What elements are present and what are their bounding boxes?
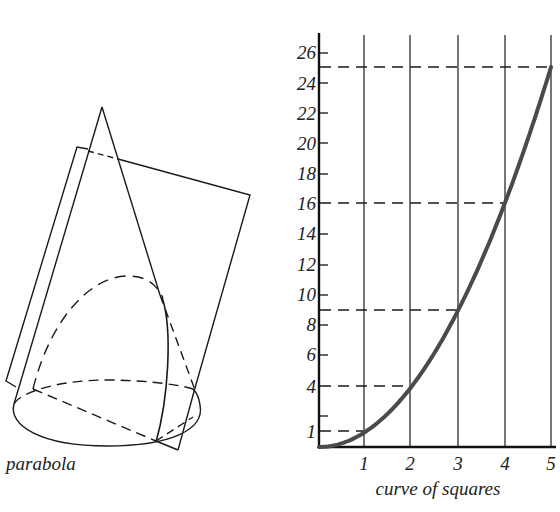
parabola-dashed: [33, 276, 163, 389]
x-label-4: 4: [500, 453, 510, 474]
x-label-3: 3: [452, 453, 463, 474]
y-label-10: 10: [297, 284, 317, 305]
x-label-2: 2: [405, 453, 415, 474]
curve-caption: curve of squares: [376, 478, 501, 499]
cutting-plane-bottom-right: [178, 388, 195, 450]
cutting-plane-top-right: [118, 159, 250, 388]
cone-left-side: [14, 107, 102, 404]
square-guides: [320, 67, 551, 431]
conic-section-diagram: [6, 107, 250, 450]
cutting-plane-top-hidden: [88, 151, 118, 159]
curve-of-squares-chart: 26 24 22 20 18 16 14 12 10 8 6 4 1 1 2 3…: [297, 33, 556, 499]
plane-base-trace: [33, 389, 156, 441]
y-label-22: 22: [297, 103, 317, 124]
x-label-5: 5: [546, 453, 556, 474]
vertical-gridlines: [364, 35, 551, 447]
y-label-20: 20: [297, 133, 317, 154]
y-ticks: [319, 53, 328, 416]
cone-right-side: [102, 107, 160, 295]
y-label-18: 18: [297, 163, 317, 184]
cutting-plane-bottom-edge: [156, 441, 178, 450]
x-label-1: 1: [359, 453, 369, 474]
x-tick-labels: 1 2 3 4 5: [359, 453, 556, 474]
y-label-26: 26: [297, 42, 317, 63]
squares-curve: [319, 67, 551, 447]
y-label-24: 24: [297, 73, 317, 94]
y-label-6: 6: [307, 344, 317, 365]
parabola-caption: parabola: [4, 453, 76, 474]
y-label-8: 8: [307, 314, 317, 335]
y-label-1: 1: [307, 421, 317, 442]
cutting-plane: [6, 147, 88, 387]
y-label-16: 16: [297, 193, 317, 214]
y-label-14: 14: [297, 223, 317, 244]
figure-canvas: parabola: [0, 0, 560, 512]
y-tick-labels: 26 24 22 20 18 16 14 12 10 8 6 4 1: [297, 42, 317, 442]
y-label-4: 4: [307, 376, 317, 397]
parabola-solid: [156, 297, 168, 442]
y-label-12: 12: [297, 254, 317, 275]
base-ellipse-front: [13, 389, 200, 446]
